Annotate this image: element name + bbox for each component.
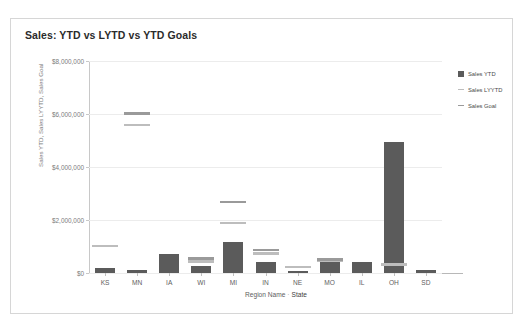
legend-line-icon: [458, 105, 464, 107]
legend-item[interactable]: Sales YTD: [458, 67, 516, 80]
reference-line[interactable]: [188, 257, 214, 260]
reference-line[interactable]: [285, 266, 311, 269]
y-tick-mark: [86, 167, 89, 168]
x-tick-label[interactable]: MN: [132, 279, 142, 286]
bar[interactable]: [352, 262, 372, 273]
reference-line[interactable]: [381, 263, 407, 266]
legend-label: Sales Goal: [468, 103, 496, 109]
bar[interactable]: [320, 262, 340, 273]
reference-line[interactable]: [124, 112, 150, 115]
x-tick-label[interactable]: NE: [293, 279, 302, 286]
chart-card: Sales: YTD vs LYTD vs YTD Goals Sales YT…: [10, 18, 513, 314]
reference-line[interactable]: [317, 258, 343, 261]
bar[interactable]: [223, 242, 243, 273]
legend-item[interactable]: Sales Goal: [458, 99, 516, 112]
x-tick-label[interactable]: OH: [389, 279, 399, 286]
x-tick-label[interactable]: KS: [101, 279, 110, 286]
y-tick-mark: [86, 273, 89, 274]
bar[interactable]: [191, 266, 211, 273]
x-tick-mark: [201, 273, 202, 276]
reference-line[interactable]: [188, 260, 214, 263]
x-axis-field-2: State: [292, 291, 307, 298]
reference-line[interactable]: [220, 222, 246, 225]
x-axis-title: Region Name·State: [89, 291, 463, 298]
reference-line[interactable]: [253, 252, 279, 255]
x-tick-mark: [266, 273, 267, 276]
legend-label: Sales YTD: [468, 71, 496, 77]
y-tick-mark: [86, 114, 89, 115]
chart-legend: Sales YTDSales LYYTDSales Goal: [458, 67, 516, 115]
chart-title: Sales: YTD vs LYTD vs YTD Goals: [25, 29, 197, 41]
legend-item[interactable]: Sales LYYTD: [458, 83, 516, 96]
x-tick-label[interactable]: WI: [197, 279, 205, 286]
reference-line[interactable]: [220, 201, 246, 204]
bar[interactable]: [384, 142, 404, 273]
x-tick-mark: [362, 273, 363, 276]
y-tick-label: $6,000,000: [52, 111, 84, 118]
x-tick-mark: [169, 273, 170, 276]
y-tick-label: $0: [77, 270, 84, 277]
x-tick-mark: [105, 273, 106, 276]
y-tick-label: $8,000,000: [52, 58, 84, 65]
plot-area: $0$2,000,000$4,000,000$6,000,000$8,000,0…: [89, 61, 442, 273]
x-tick-mark: [233, 273, 234, 276]
legend-line-icon: [458, 89, 464, 91]
x-tick-label[interactable]: IL: [359, 279, 365, 286]
x-tick-label[interactable]: IA: [166, 279, 172, 286]
x-tick-mark: [298, 273, 299, 276]
y-tick-mark: [86, 61, 89, 62]
x-tick-label[interactable]: IN: [262, 279, 269, 286]
reference-line[interactable]: [124, 124, 150, 127]
y-gridline: [89, 61, 442, 62]
bar[interactable]: [256, 262, 276, 273]
x-tick-label[interactable]: SD: [421, 279, 430, 286]
legend-label: Sales LYYTD: [468, 87, 502, 93]
y-tick-label: $2,000,000: [52, 217, 84, 224]
x-tick-mark: [394, 273, 395, 276]
reference-line[interactable]: [92, 245, 118, 248]
legend-square-icon: [458, 71, 464, 77]
x-tick-mark: [330, 273, 331, 276]
screenshot-root: Sales: YTD vs LYTD vs YTD Goals Sales YT…: [0, 0, 523, 330]
x-tick-mark: [426, 273, 427, 276]
x-tick-mark: [137, 273, 138, 276]
y-tick-label: $4,000,000: [52, 164, 84, 171]
x-axis-field-1: Region Name: [245, 291, 285, 298]
reference-line[interactable]: [253, 249, 279, 252]
x-tick-label[interactable]: MO: [324, 279, 335, 286]
x-tick-label[interactable]: MI: [230, 279, 237, 286]
y-tick-mark: [86, 220, 89, 221]
y-axis-title: Sales YTD, Sales LYYTD, Sales Goal: [37, 64, 44, 167]
bar[interactable]: [159, 254, 179, 273]
